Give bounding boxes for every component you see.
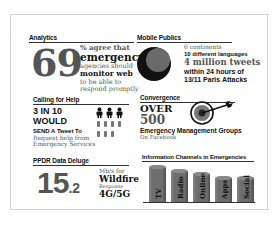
bar-radio: Radio (171, 169, 188, 202)
people-icon (95, 107, 127, 141)
calling-for-help-line2: WOULD (33, 116, 95, 126)
ppdr-number-main: 15 (37, 166, 68, 199)
chart-plot-area: TV Radio Online Apps Social (143, 165, 255, 203)
bar-label-tv: TV (153, 188, 162, 199)
analytics-number: 69 (31, 44, 82, 82)
ppdr-number: 15.2 (37, 168, 80, 198)
mobile-publics-title: Mobile Publics (137, 34, 232, 43)
bar-label-online: Online (197, 173, 206, 199)
mobile-publics-line3: 4 million tweets (184, 58, 260, 68)
analytics-line6: respond promptly (80, 86, 144, 93)
calling-for-help-title: Calling for Help (33, 96, 129, 105)
bar-label-apps: Apps (219, 180, 228, 199)
ppdr-number-decimal: .2 (68, 180, 80, 196)
calling-for-help-line1: 3 IN 10 (33, 106, 95, 116)
calling-for-help-text: 3 IN 10 WOULD SEND A Tweet To Request he… (33, 106, 95, 148)
chart-title: Information Channels in Emergencies (142, 154, 254, 162)
ppdr-title: PPDR Data Deluge (33, 157, 129, 166)
bar-tv: TV (149, 165, 166, 202)
mobile-publics-line5: 13/11 Paris Attacks (184, 76, 260, 84)
bar-online: Online (193, 172, 210, 202)
pie-chart-icon (136, 46, 172, 82)
ppdr-line4: 4G/5G (99, 190, 139, 199)
mobile-publics-line4: within 24 hours of (184, 68, 260, 76)
mobile-publics-line1: 6 continents (184, 44, 260, 51)
convergence-line4: On Facebook (140, 134, 242, 140)
bar-label-social: Social (241, 175, 250, 199)
calling-for-help-line5: Emergency Services (33, 141, 95, 148)
bar-social: Social (237, 176, 254, 202)
analytics-line2: emergency (80, 52, 144, 63)
ppdr-text: Mb/s for Wildfire Response 4G/5G (99, 168, 139, 199)
target-arrow-icon (189, 100, 235, 128)
analytics-text: % agree that emergency agencies should m… (80, 44, 144, 94)
bar-label-radio: Radio (175, 176, 184, 199)
mobile-publics-text: 6 continents 10 different languages 4 mi… (184, 44, 260, 84)
bar-apps: Apps (215, 176, 232, 202)
